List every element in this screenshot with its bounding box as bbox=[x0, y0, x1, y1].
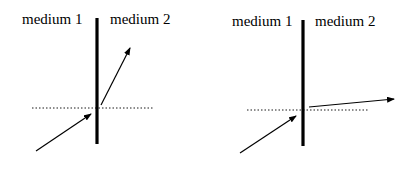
incident-ray-arrow bbox=[36, 114, 91, 151]
medium-2-label: medium 2 bbox=[110, 11, 170, 27]
medium-2-label: medium 2 bbox=[315, 13, 375, 29]
diagram-left: medium 1 medium 2 bbox=[22, 11, 170, 151]
refracted-ray-arrow bbox=[309, 99, 394, 107]
medium-1-label: medium 1 bbox=[22, 11, 82, 27]
incident-ray-arrow bbox=[240, 116, 296, 153]
medium-1-label: medium 1 bbox=[232, 13, 292, 29]
refracted-ray-arrow bbox=[101, 48, 130, 105]
refraction-diagrams: medium 1 medium 2 medium 1 medium 2 bbox=[0, 0, 413, 170]
diagram-right: medium 1 medium 2 bbox=[232, 13, 394, 153]
